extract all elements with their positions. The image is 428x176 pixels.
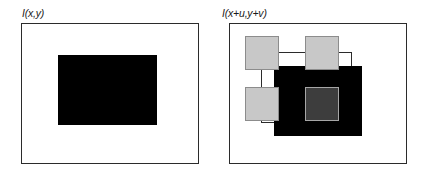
panel-left-frame (21, 23, 199, 164)
figure-canvas: I(x,y) I(x+u,y+v) (0, 0, 428, 176)
candidate-square-bottom-left (245, 87, 279, 121)
candidate-square-top-middle (305, 36, 339, 70)
template-patch-black (58, 55, 157, 125)
panel-right-label: I(x+u,y+v) (222, 8, 267, 19)
panel-right-frame (229, 23, 407, 164)
candidate-square-top-left (245, 36, 279, 70)
candidate-square-center-dark (305, 87, 339, 121)
panel-left-label: I(x,y) (22, 8, 44, 19)
